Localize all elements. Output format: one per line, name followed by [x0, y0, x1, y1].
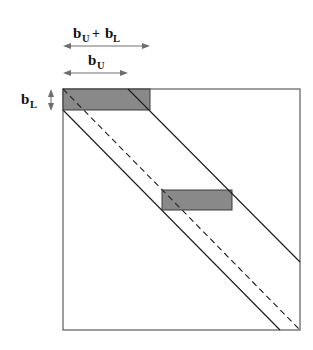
total-bandwidth-operator: + — [92, 26, 100, 41]
lower-bandwidth-arrow — [48, 89, 54, 111]
lower-bandwidth-arrowhead-down — [48, 103, 54, 111]
upper-bandwidth-arrow — [63, 70, 128, 76]
upper-bandwidth-arrowhead-right — [120, 70, 128, 76]
diagram-canvas: b U + b L b U b L — [0, 0, 313, 350]
total-bandwidth-arrowhead-right — [142, 43, 150, 49]
lower-bandwidth-base: b — [21, 91, 29, 107]
total-bandwidth-sub-2: L — [113, 33, 120, 44]
banded-matrix-diagram: b U + b L b U b L — [0, 0, 313, 350]
upper-bandwidth-base: b — [88, 52, 96, 68]
total-bandwidth-arrow — [63, 43, 150, 49]
top-left-block — [63, 89, 150, 110]
upper-band-edge-line — [128, 89, 300, 262]
upper-bandwidth-arrowhead-left — [63, 70, 71, 76]
lower-bandwidth-label-group: b L — [21, 91, 37, 110]
total-bandwidth-label-group: b U + b L — [73, 25, 120, 44]
upper-bandwidth-sub: U — [97, 60, 105, 71]
shaded-blocks — [63, 89, 232, 210]
total-bandwidth-arrowhead-left — [63, 43, 71, 49]
upper-bandwidth-label-group: b U — [88, 52, 105, 71]
lower-band-edge-line — [63, 110, 280, 330]
lower-bandwidth-arrowhead-up — [48, 89, 54, 97]
total-bandwidth-sub-1: U — [82, 33, 90, 44]
lower-bandwidth-sub: L — [30, 99, 37, 110]
total-bandwidth-base-1: b — [73, 25, 81, 41]
